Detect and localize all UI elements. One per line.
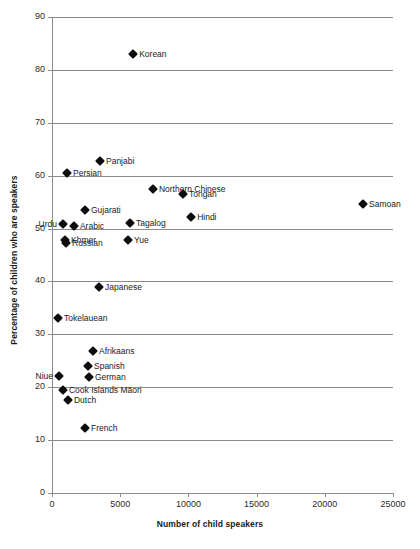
data-point-label: Dutch — [74, 396, 96, 405]
x-tick-label: 5000 — [110, 500, 130, 509]
x-tick-mark — [325, 493, 326, 497]
data-point-label: Gujarati — [91, 205, 121, 214]
y-axis-title: Percentage of children who are speakers — [9, 140, 19, 380]
data-point-label: Urdu — [39, 220, 57, 229]
data-point-label: Tagalog — [136, 219, 166, 228]
y-tick-label: 80 — [5, 65, 45, 74]
data-point-label: Cook Islands Māori — [69, 386, 142, 395]
x-tick-label: 15000 — [244, 500, 269, 509]
data-point-label: Yue — [134, 235, 149, 244]
x-tick-mark — [257, 493, 258, 497]
x-axis-line — [52, 493, 393, 494]
y-tick-label: 70 — [5, 118, 45, 127]
x-tick-mark — [188, 493, 189, 497]
data-point-label: Persian — [73, 169, 102, 178]
data-point-label: Tongan — [189, 189, 217, 198]
data-point-label: Tokelauean — [64, 314, 107, 323]
x-tick-label: 20000 — [312, 500, 337, 509]
y-tick-label: 90 — [5, 12, 45, 21]
x-tick-mark — [393, 493, 394, 497]
y-tick-label: 0 — [5, 488, 45, 497]
data-point-label: Hindi — [197, 213, 216, 222]
data-point-label: French — [91, 424, 117, 433]
x-tick-label: 10000 — [176, 500, 201, 509]
x-tick-mark — [120, 493, 121, 497]
data-point-label: Korean — [139, 50, 166, 59]
data-point-label: Arabic — [80, 222, 104, 231]
plot-area — [52, 17, 393, 493]
y-tick-label: 10 — [5, 435, 45, 444]
x-tick-mark — [52, 493, 53, 497]
data-point-label: Russian — [72, 239, 103, 248]
data-point-label: Samoan — [369, 200, 401, 209]
y-tick-label: 20 — [5, 382, 45, 391]
x-tick-label: 0 — [49, 500, 54, 509]
data-point-label: German — [95, 372, 126, 381]
x-axis-title: Number of child speakers — [0, 519, 420, 529]
scatter-chart: 0102030405060708090 05000100001500020000… — [0, 0, 420, 549]
data-point-label: Niue — [36, 371, 53, 380]
data-point-label: Panjabi — [106, 157, 134, 166]
data-point-label: Japanese — [105, 282, 142, 291]
x-tick-label: 25000 — [380, 500, 405, 509]
data-point-label: Spanish — [94, 362, 125, 371]
data-point-label: Afrikaans — [99, 347, 134, 356]
